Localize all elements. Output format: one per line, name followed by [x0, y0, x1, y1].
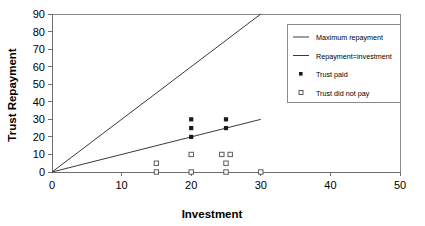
x-tick-label: 20 — [185, 179, 197, 191]
y-tick-label: 10 — [33, 148, 45, 160]
x-tick-label: 30 — [255, 179, 267, 191]
y-tick-label: 20 — [33, 131, 45, 143]
y-tick-label: 0 — [39, 166, 45, 178]
y-axis-title: Trust Repayment — [6, 48, 18, 141]
x-tick-label: 10 — [115, 179, 127, 191]
chart-container: 010203040506070809001020304050 Maximum r… — [0, 0, 425, 226]
data-point-trust-did-not-pay — [220, 152, 224, 156]
legend-label-1: Repayment=investment — [316, 52, 392, 61]
data-point-trust-did-not-pay — [189, 152, 193, 156]
data-point-trust-did-not-pay — [228, 152, 232, 156]
chart-legend: Maximum repaymentRepayment=investmentTru… — [287, 24, 400, 102]
legend-label-3: Trust did not pay — [316, 89, 370, 98]
y-tick-label: 30 — [33, 113, 45, 125]
data-point-trust-paid — [189, 135, 193, 139]
data-point-trust-paid — [224, 126, 228, 130]
legend-label-0: Maximum repayment — [316, 33, 383, 42]
data-point-trust-paid — [189, 126, 193, 130]
y-tick-label: 60 — [33, 61, 45, 73]
series-line-maximum-repayment — [52, 14, 261, 172]
x-tick-label: 50 — [394, 179, 406, 191]
y-tick-label: 80 — [33, 26, 45, 38]
data-point-trust-did-not-pay — [259, 170, 263, 174]
y-tick-label: 90 — [33, 8, 45, 20]
scatter-plot: 010203040506070809001020304050 Maximum r… — [0, 0, 425, 226]
x-tick-label: 40 — [324, 179, 336, 191]
data-point-trust-did-not-pay — [224, 161, 228, 165]
y-tick-label: 40 — [33, 96, 45, 108]
legend-label-2: Trust paid — [316, 70, 348, 79]
data-point-trust-paid — [224, 117, 228, 121]
data-point-trust-paid — [189, 117, 193, 121]
y-tick-label: 70 — [33, 43, 45, 55]
reference-lines — [52, 14, 261, 172]
data-point-trust-did-not-pay — [189, 170, 193, 174]
data-point-trust-did-not-pay — [154, 170, 158, 174]
x-tick-label: 0 — [49, 179, 55, 191]
data-point-trust-did-not-pay — [224, 170, 228, 174]
y-tick-label: 50 — [33, 78, 45, 90]
data-points — [154, 117, 263, 174]
legend-open-square-swatch — [299, 91, 303, 95]
data-point-trust-did-not-pay — [154, 161, 158, 165]
legend-filled-square-swatch — [299, 72, 303, 76]
x-axis-title: Investment — [182, 208, 243, 220]
